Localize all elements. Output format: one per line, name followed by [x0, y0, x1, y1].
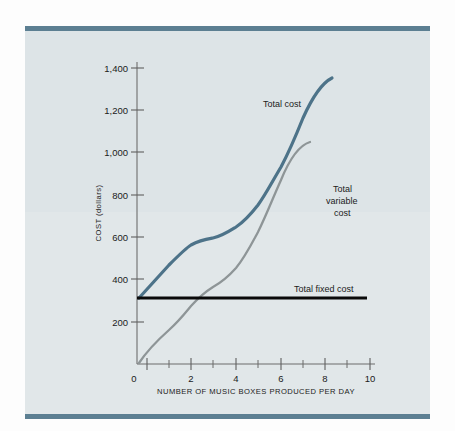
x-tick-label-0: 0	[131, 373, 136, 384]
y-tick-label-1000: 1,000	[104, 147, 128, 158]
y-tick-label-600: 600	[112, 232, 128, 243]
x-tick-label-2: 2	[188, 373, 193, 384]
x-axis-title: NUMBER OF MUSIC BOXES PRODUCED PER DAY	[157, 387, 355, 396]
x-tick-label-6: 6	[278, 373, 283, 384]
y-tick-label-1200: 1,200	[104, 105, 128, 116]
label-total-variable-cost-line1: Total	[333, 184, 352, 194]
label-total-variable-cost-line2: variable	[326, 196, 358, 206]
x-tick-label-10: 10	[365, 373, 376, 384]
series-total-variable-cost	[139, 142, 310, 363]
label-total-cost: Total cost	[263, 99, 302, 109]
y-tick-label-800: 800	[112, 190, 128, 201]
cost-curves-chart: 1,400 1,200 1,000 800 600 400 200 0 2 4 …	[0, 0, 455, 431]
y-tick-label-1400: 1,400	[104, 63, 128, 74]
y-axis-title: COST (dollars)	[94, 185, 103, 242]
series-total-cost	[139, 78, 332, 298]
x-tick-label-8: 8	[322, 373, 327, 384]
x-tick-label-4: 4	[233, 373, 238, 384]
label-total-fixed-cost: Total fixed cost	[294, 284, 354, 294]
y-tick-label-400: 400	[112, 274, 128, 285]
figure-root: 1,400 1,200 1,000 800 600 400 200 0 2 4 …	[0, 0, 455, 431]
label-total-variable-cost-line3: cost	[334, 208, 351, 218]
y-tick-label-200: 200	[112, 317, 128, 328]
